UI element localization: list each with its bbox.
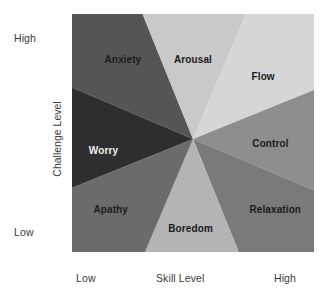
x-axis-high-tick-label: High bbox=[274, 272, 296, 284]
plot-area: AnxietyArousalFlowControlRelaxationBored… bbox=[72, 14, 314, 252]
y-axis-title: Challenge Level bbox=[51, 101, 63, 176]
y-axis-high-tick-label: High bbox=[14, 32, 36, 44]
x-axis-low-tick-label: Low bbox=[76, 272, 96, 284]
flow-model-diagram: High Low Challenge Level AnxietyArousalF… bbox=[0, 0, 330, 304]
y-axis-low-tick-label: Low bbox=[14, 226, 34, 238]
x-axis-title: Skill Level bbox=[156, 272, 204, 284]
sector-wheel bbox=[72, 14, 314, 252]
